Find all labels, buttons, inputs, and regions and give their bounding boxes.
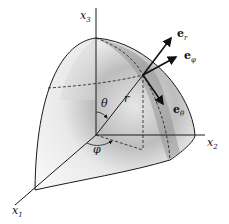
- e-theta-label: eθ: [173, 104, 184, 118]
- spherical-coordinates-diagram: x3 x2 x1 θ φ r er eφ eθ: [0, 0, 229, 224]
- phi-label: φ: [93, 144, 101, 155]
- x2-axis-label: x2: [207, 137, 218, 151]
- theta-label: θ: [101, 98, 108, 109]
- x3-axis-label: x3: [80, 10, 91, 24]
- x1-axis-label: x1: [12, 205, 23, 219]
- e-phi-label: eφ: [184, 50, 196, 64]
- e-r-label: er: [177, 28, 187, 42]
- radius-label: r: [124, 93, 129, 104]
- diagram-graphics: [0, 0, 229, 224]
